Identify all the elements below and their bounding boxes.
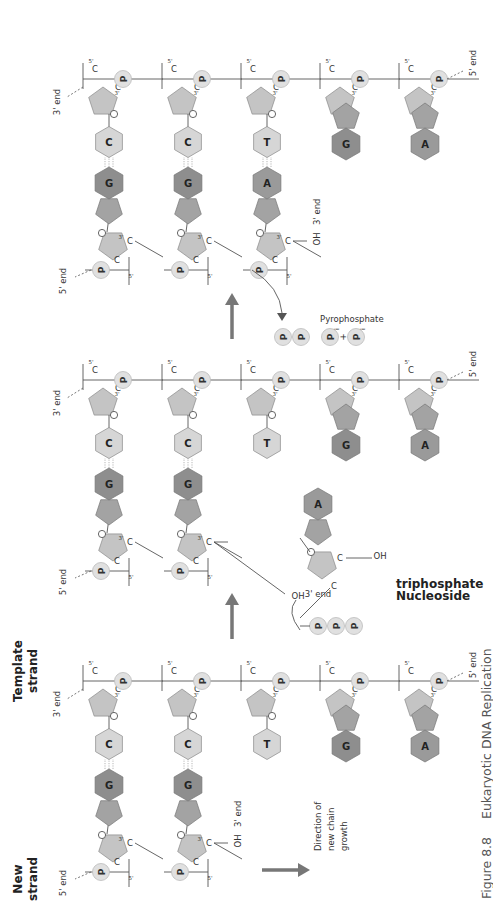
c5-label: C: [193, 857, 199, 867]
c5-label: C: [92, 64, 98, 74]
c3-label: C: [127, 838, 133, 848]
phosphate-label: P: [356, 75, 366, 82]
five-prime-mark: 5': [404, 660, 409, 666]
three-prime-mark: 3': [272, 90, 277, 96]
three-prime-mark: 3': [276, 234, 281, 240]
base-letter: C: [184, 438, 191, 449]
five-prime-mark: 5': [404, 58, 409, 64]
c5-label: C: [193, 255, 199, 265]
three-prime-mark: 3': [351, 391, 356, 397]
three-prime-mark: 3': [351, 90, 356, 96]
base-letter: G: [184, 479, 192, 490]
phosphate-label: P: [119, 677, 129, 684]
new-5-end-dashes: [75, 270, 91, 277]
phosphate-label: P: [176, 567, 186, 574]
c5-label: C: [114, 556, 120, 566]
ring-oxygen: [189, 110, 196, 117]
c5-label: C: [92, 666, 98, 676]
ring-oxygen: [177, 229, 184, 236]
base-G: G: [95, 167, 123, 224]
base-G: G: [174, 468, 202, 525]
hydrogen-bonds: [184, 759, 192, 769]
deoxyribose-sugar: [168, 689, 197, 720]
five-prime-mark: 5': [167, 359, 172, 365]
base-letter: T: [264, 739, 271, 750]
new-5-end-label: 5' end: [58, 870, 68, 896]
five-prime-mark: 5': [325, 58, 330, 64]
five-prime-mark: 5': [246, 58, 251, 64]
base-letter: A: [421, 741, 429, 752]
c5-label: C: [408, 666, 414, 676]
three-prime-mark: 3': [118, 535, 123, 541]
c5-label: C: [408, 64, 414, 74]
template-5-end-dashes: [447, 71, 463, 79]
sugar-pentagon: [168, 388, 197, 415]
phosphate-label: P: [435, 677, 445, 684]
c5-label: C: [408, 365, 414, 375]
base-A: A: [411, 705, 439, 762]
ring-oxygen: [98, 229, 105, 236]
phosphate-label: P: [176, 266, 186, 273]
link-to-next: [135, 542, 163, 558]
five-prime-mark: 5': [325, 660, 330, 666]
three-prime-mark: 3': [351, 692, 356, 698]
new-3-end-label: 3' end: [233, 801, 243, 827]
c5-label: C: [329, 64, 335, 74]
purine-pentagon: [175, 199, 202, 224]
base-letter: A: [263, 178, 271, 189]
base-letter: G: [105, 178, 113, 189]
c5-label: C: [171, 666, 177, 676]
base-C: C: [96, 428, 123, 459]
hydrogen-bonds: [105, 157, 113, 167]
five-prime-mark: 5': [167, 58, 172, 64]
phosphate-label: P: [350, 622, 360, 629]
deoxyribose-sugar: [89, 388, 118, 419]
purine-pentagon: [175, 500, 202, 525]
c3-label: C: [127, 537, 133, 547]
sugar-pentagon: [168, 87, 197, 114]
base-G: G: [332, 404, 360, 461]
base-C: C: [96, 729, 123, 760]
step-arrow-head: [225, 593, 239, 605]
base-letter: C: [105, 438, 112, 449]
step-arrow-2: [225, 293, 239, 339]
base-letter: T: [264, 438, 271, 449]
base-A: A: [304, 488, 332, 545]
panel-initial: C5'C3'PCC5'C3'PCC5'C3'PTC5'C3'PGC5'C3'PA…: [52, 652, 479, 896]
purine-pentagon: [96, 801, 123, 826]
c5-label: C: [272, 255, 278, 265]
c5-label: C: [250, 64, 256, 74]
figure-caption: Figure 8.8Eukaryotic DNA Replication: [479, 648, 493, 899]
phosphate-label: P: [277, 376, 287, 383]
base-letter: A: [421, 440, 429, 451]
oh-label: OH: [312, 232, 322, 245]
template-strand: C5'C3'PCC5'C3'PCC5'C3'PTC5'C3'PGC5'C3'PA…: [52, 351, 479, 461]
base-G: G: [174, 769, 202, 826]
sugar-pentagon: [89, 87, 118, 114]
three-prime-mark: 3': [430, 692, 435, 698]
c5-label: C: [329, 666, 335, 676]
three-prime-mark: 3': [118, 234, 123, 240]
direction-label-1: Direction of: [313, 801, 323, 851]
new-3-end-label: 3' end: [312, 199, 322, 225]
template-3-end-label: 3' end: [52, 89, 62, 115]
phosphate-label: P: [279, 333, 289, 340]
three-prime-mark: 3': [430, 90, 435, 96]
link-to-next: [214, 241, 242, 257]
five-prime-mark: 5': [128, 273, 133, 279]
ntp-c3-label: C: [337, 553, 343, 563]
template-5-end-label: 5' end: [468, 652, 478, 678]
five-prime-mark: 5': [246, 359, 251, 365]
ntp-oh-label: OH: [373, 551, 386, 561]
phosphate-subscript: i: [333, 328, 341, 330]
deoxyribose-sugar: [168, 87, 197, 118]
template-5-end-dashes: [447, 673, 463, 681]
ring-oxygen: [256, 229, 263, 236]
template-5-end-dashes: [447, 372, 463, 380]
ring-oxygen: [177, 831, 184, 838]
panel-incoming-nucleotide: C5'C3'PCC5'C3'PCC5'C3'PTC5'C3'PGC5'C3'PA…: [52, 351, 479, 595]
base-T: T: [254, 127, 281, 158]
c3-label: C: [206, 537, 212, 547]
base-letter: G: [342, 741, 350, 752]
ring-oxygen: [110, 110, 117, 117]
